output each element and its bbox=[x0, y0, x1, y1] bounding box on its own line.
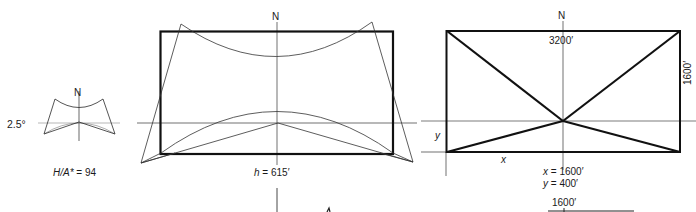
diag-bottom-left bbox=[447, 121, 563, 152]
diag-bottom-right bbox=[563, 121, 680, 152]
ratio-var: H/A* bbox=[53, 167, 74, 178]
diagram-canvas bbox=[0, 0, 696, 212]
middle-upper-curve bbox=[181, 22, 372, 57]
ratio-eq: = 94 bbox=[74, 167, 97, 178]
small-chevron bbox=[44, 122, 115, 134]
bottom-dimension-label: 1600′ bbox=[552, 198, 576, 208]
y-var-label: y bbox=[435, 131, 440, 141]
small-plan bbox=[38, 91, 120, 141]
small-lower-curve bbox=[44, 123, 115, 134]
x-value-eq: = 1600′ bbox=[548, 166, 584, 177]
diag-top-right bbox=[563, 31, 680, 121]
y-value-label: y = 400′ bbox=[543, 179, 578, 189]
right-north-label: N bbox=[558, 11, 565, 21]
middle-north-label: N bbox=[272, 12, 279, 22]
side-dimension-label: 1600′ bbox=[683, 61, 693, 85]
top-dimension-label: 3200′ bbox=[549, 36, 573, 46]
ratio-label: H/A* = 94 bbox=[53, 168, 96, 178]
x-value-label: x = 1600′ bbox=[543, 167, 584, 177]
middle-plan bbox=[137, 22, 417, 212]
angle-label: 2.5° bbox=[7, 119, 26, 130]
diag-top-left bbox=[447, 31, 563, 121]
y-value-eq: = 400′ bbox=[548, 178, 578, 189]
x-var-label: x bbox=[501, 155, 506, 165]
small-north-label: N bbox=[74, 88, 81, 98]
height-label: h = 615′ bbox=[254, 168, 290, 178]
height-eq: = 615′ bbox=[260, 167, 290, 178]
